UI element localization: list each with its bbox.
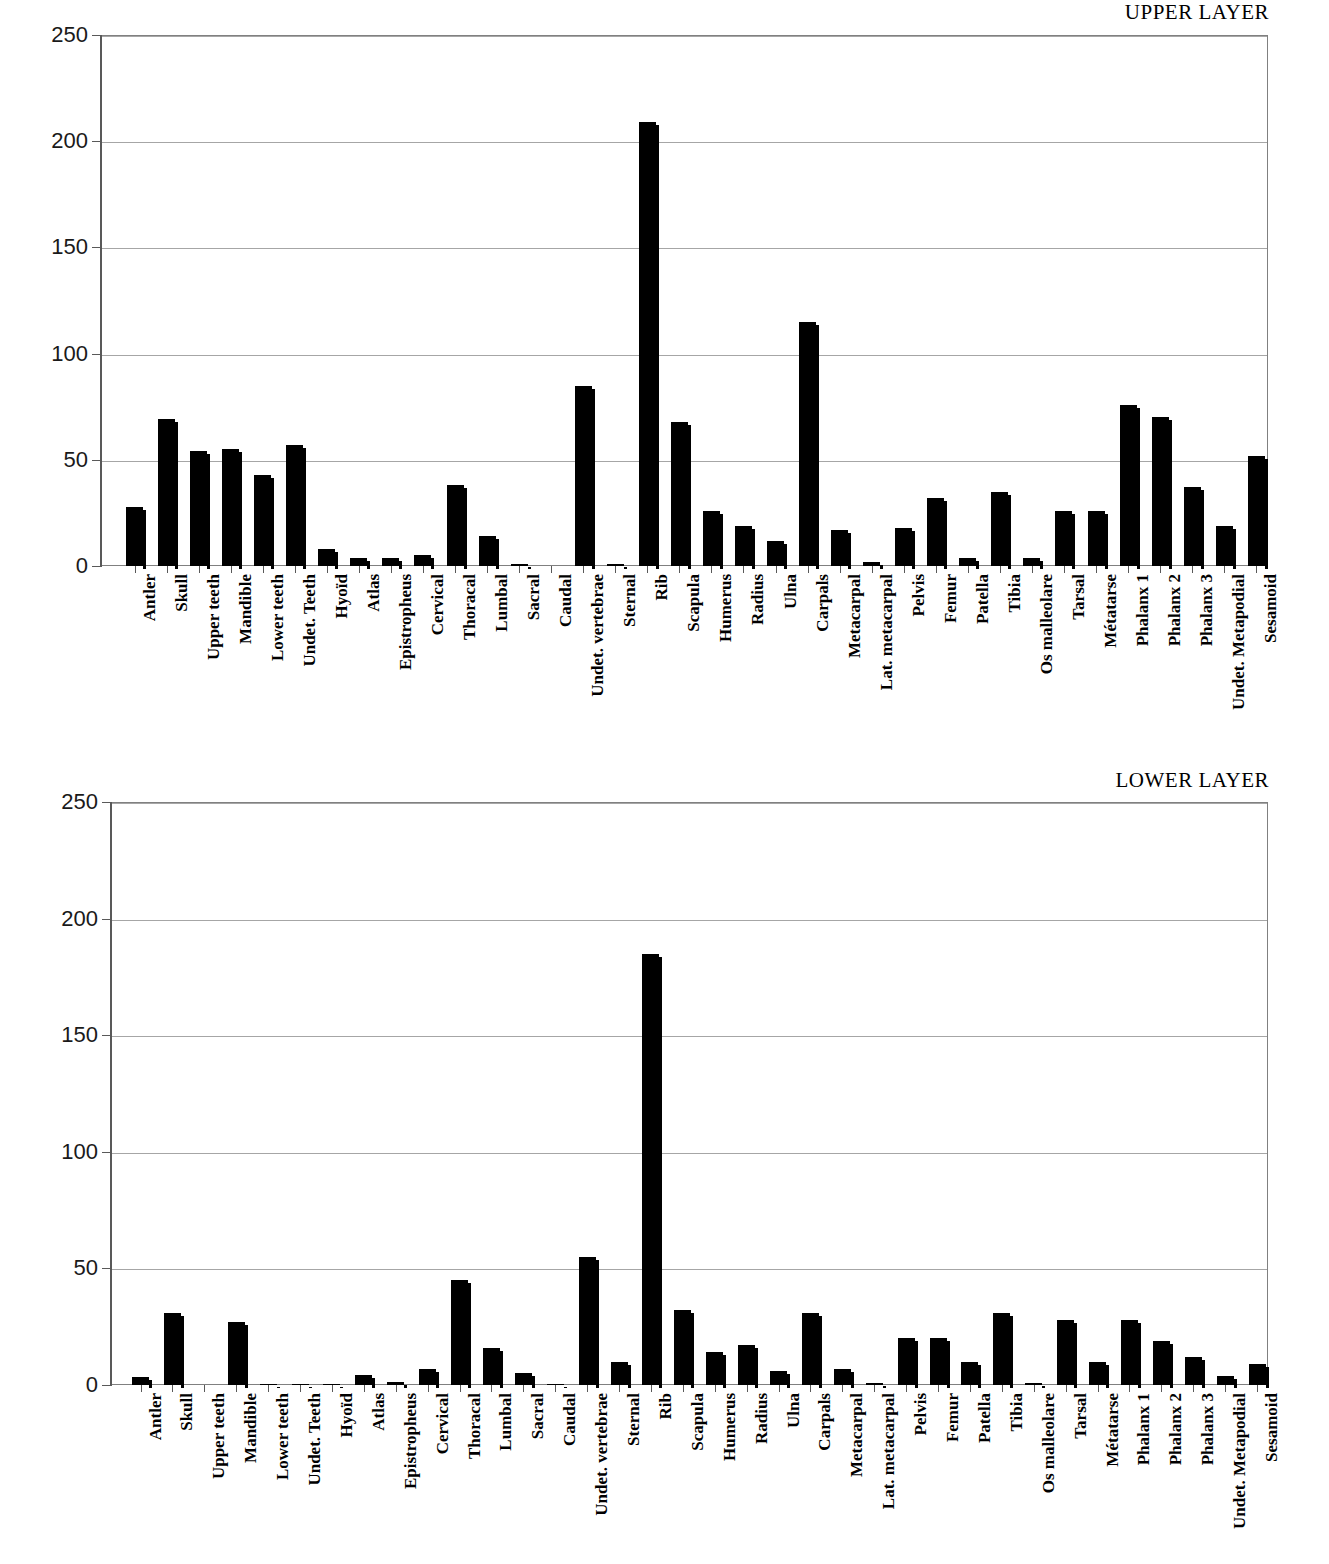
bar (1089, 1362, 1106, 1385)
x-axis-label: Os malleolare (1038, 574, 1055, 674)
x-tick-mark (428, 1385, 429, 1392)
x-axis-label: Ulna (785, 1393, 802, 1428)
x-axis-label: Sesamoid (1263, 1393, 1280, 1462)
bar (451, 1280, 468, 1385)
x-tick-mark (1193, 1385, 1194, 1392)
y-tick-mark (102, 1268, 110, 1269)
x-axis-label: Tarsal (1070, 574, 1087, 620)
bar (642, 954, 659, 1385)
bar-shadow (1074, 1323, 1077, 1388)
x-axis-label: Lat. metacarpal (880, 1393, 897, 1509)
x-tick-mark (487, 566, 488, 573)
bar (355, 1375, 372, 1386)
bar-shadow (848, 533, 851, 569)
x-axis-label: Humerus (717, 574, 734, 642)
x-tick-mark (300, 1385, 301, 1392)
x-axis-label: Lat. metacarpal (878, 574, 895, 690)
x-axis-label: Phalanx 3 (1199, 1393, 1216, 1465)
bar (414, 555, 431, 566)
x-tick-mark (455, 566, 456, 573)
bar (190, 451, 207, 566)
x-axis-label: Phalanx 2 (1166, 574, 1183, 646)
bar (706, 1352, 723, 1385)
x-tick-mark (1034, 1385, 1035, 1392)
x-tick-mark (1032, 566, 1033, 573)
bar-shadow (496, 539, 499, 569)
x-axis-label: Upper teeth (210, 1393, 227, 1479)
x-axis-label: Lower teeth (269, 574, 286, 661)
bar (1185, 1357, 1202, 1385)
bar-shadow (309, 1387, 312, 1388)
x-axis-label: Thoracal (466, 1393, 483, 1459)
x-axis-label: Sesamoid (1262, 574, 1279, 643)
x-tick-mark (172, 1385, 173, 1392)
x-tick-mark (523, 1385, 524, 1392)
bar (1120, 405, 1137, 566)
bar (993, 1313, 1010, 1385)
bar (767, 541, 784, 567)
bar-shadow (784, 544, 787, 570)
chart-title-lower: LOWER LAYER (1116, 768, 1269, 793)
x-tick-mark (1066, 1385, 1067, 1392)
x-tick-mark (295, 566, 296, 573)
y-tick-label: 200 (28, 908, 98, 930)
x-axis-label: Lumbal (493, 574, 510, 632)
x-axis-label: Undet. Teeth (301, 574, 318, 667)
x-axis-label: Cervical (429, 574, 446, 635)
bar (1023, 558, 1040, 567)
bar (1248, 456, 1265, 566)
x-tick-mark (747, 1385, 748, 1392)
bar-shadow (1040, 561, 1043, 570)
x-tick-mark (491, 1385, 492, 1392)
y-tick-mark (92, 141, 100, 142)
bar-shadow (752, 529, 755, 569)
x-tick-mark (1224, 566, 1225, 573)
x-tick-mark (231, 566, 232, 573)
bar-shadow (528, 567, 531, 569)
bar-shadow (723, 1355, 726, 1388)
bar (831, 530, 848, 566)
bar (1153, 1341, 1170, 1385)
x-tick-mark (519, 566, 520, 573)
bar (1057, 1320, 1074, 1385)
y-tick-label: 150 (28, 1024, 98, 1046)
y-tick-mark (102, 1035, 110, 1036)
bar-shadow (1201, 490, 1204, 569)
x-axis-label: Os malleolare (1040, 1393, 1057, 1493)
x-tick-mark (587, 1385, 588, 1392)
bar-shadow (245, 1325, 248, 1388)
bar-shadow (335, 552, 338, 569)
bar (802, 1313, 819, 1385)
bar-shadow (816, 325, 819, 569)
bar (1249, 1364, 1266, 1385)
bar-shadow (143, 510, 146, 570)
x-axis-label: Sternal (625, 1393, 642, 1446)
bar (382, 558, 399, 567)
x-tick-mark (743, 566, 744, 573)
x-axis-label: Hyoïd (338, 1393, 355, 1437)
y-tick-mark (102, 919, 110, 920)
bar-shadow (691, 1313, 694, 1388)
bar-shadow (399, 561, 402, 570)
bar (1121, 1320, 1138, 1385)
x-axis-label: Caudal (557, 574, 574, 627)
x-tick-mark (135, 566, 136, 573)
bar-shadow (688, 425, 691, 569)
y-tick-mark (102, 802, 110, 803)
x-axis-label: Femur (944, 1393, 961, 1442)
x-axis-label: Phalanx 1 (1134, 574, 1151, 646)
x-axis-labels-upper: AntlerSkullUpper teethMandibleLower teet… (100, 574, 1290, 754)
bar-shadow (436, 1372, 439, 1388)
bar-shadow (1138, 1323, 1141, 1388)
bar-shadow (367, 561, 370, 570)
x-axis-label: Tibia (1008, 1393, 1025, 1431)
bar-shadow (1042, 1386, 1045, 1388)
x-axis-label: Antler (141, 574, 158, 621)
x-axis-label: Tarsal (1072, 1393, 1089, 1439)
y-tick-label: 250 (18, 24, 88, 46)
x-axis-label: Atlas (365, 574, 382, 612)
x-tick-mark (1000, 566, 1001, 573)
y-tick-mark (102, 1385, 110, 1386)
bar (126, 507, 143, 567)
x-tick-mark (332, 1385, 333, 1392)
